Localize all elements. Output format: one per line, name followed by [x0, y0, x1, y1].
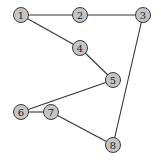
node-8: 8: [106, 138, 121, 153]
node-6: 6: [14, 105, 29, 120]
edge-7-8: [51, 112, 113, 145]
graph-diagram: 12345678: [0, 0, 161, 164]
node-label: 3: [140, 10, 146, 21]
node-3: 3: [136, 8, 151, 23]
nodes-layer: 12345678: [14, 8, 151, 153]
edge-1-4: [21, 15, 80, 48]
node-label: 4: [77, 43, 83, 54]
node-label: 8: [110, 140, 116, 151]
node-label: 7: [48, 107, 54, 118]
node-label: 1: [18, 10, 24, 21]
node-label: 2: [77, 10, 83, 21]
node-5: 5: [106, 73, 121, 88]
node-7: 7: [44, 105, 59, 120]
node-2: 2: [73, 8, 88, 23]
edges-layer: [21, 15, 143, 145]
edge-5-6: [21, 80, 113, 112]
node-4: 4: [73, 41, 88, 56]
node-label: 5: [110, 75, 116, 86]
node-label: 6: [18, 107, 24, 118]
node-1: 1: [14, 8, 29, 23]
